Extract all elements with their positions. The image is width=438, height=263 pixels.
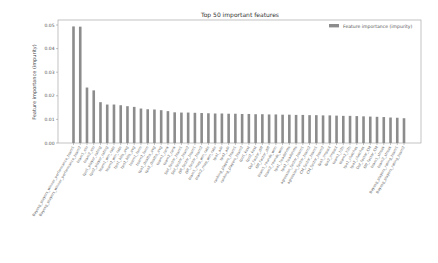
bar: [146, 109, 149, 143]
bar: [281, 115, 284, 143]
bar: [153, 109, 156, 143]
bar: [248, 114, 251, 143]
bar: [86, 88, 89, 143]
feature-importance-chart: Top 50 important features Feature import…: [0, 0, 438, 263]
bar: [342, 116, 345, 143]
y-tick-label: 0.01: [44, 117, 54, 122]
bar: [113, 105, 116, 143]
legend-swatch: [329, 24, 339, 27]
bar: [160, 110, 163, 143]
chart-background: [0, 0, 438, 263]
y-tick-label: 0.04: [44, 46, 54, 51]
bar: [389, 118, 392, 143]
bar: [234, 114, 237, 143]
bar: [106, 105, 109, 143]
y-axis-title: Feature importance (impurity): [31, 44, 38, 120]
bar: [288, 115, 291, 143]
bar: [214, 114, 217, 144]
bar: [349, 116, 352, 143]
bar: [221, 114, 224, 144]
legend-label: Feature importance (impurity): [343, 24, 413, 29]
y-tick-label: 0.00: [44, 141, 54, 146]
bar: [194, 113, 197, 143]
bar: [207, 113, 210, 143]
bar: [167, 111, 170, 143]
bar: [355, 116, 358, 143]
bar: [308, 115, 311, 143]
bar: [126, 106, 129, 143]
bar: [99, 102, 102, 143]
bar: [180, 113, 183, 143]
bar: [382, 117, 385, 143]
bar: [329, 115, 332, 143]
bar: [396, 118, 399, 143]
bar: [133, 107, 136, 143]
bar: [335, 116, 338, 143]
bar: [295, 115, 298, 143]
y-tick-label: 0.02: [44, 93, 54, 98]
bar: [268, 114, 271, 143]
y-tick-label: 0.05: [44, 23, 54, 28]
bar: [275, 114, 278, 143]
bar: [315, 115, 318, 143]
bar: [376, 117, 379, 143]
bar: [200, 113, 203, 143]
bar: [187, 113, 190, 143]
bar: [362, 116, 365, 143]
bar: [72, 26, 75, 143]
y-tick-label: 0.03: [44, 70, 54, 75]
bar: [254, 114, 257, 143]
bar: [369, 117, 372, 143]
bar: [140, 109, 143, 143]
bar: [79, 27, 82, 143]
bar: [241, 114, 244, 143]
bar: [227, 114, 230, 143]
bar: [173, 112, 176, 143]
bar: [119, 105, 122, 143]
bar: [403, 118, 406, 143]
chart-title: Top 50 important features: [200, 11, 279, 19]
bar: [302, 115, 305, 143]
bar: [92, 90, 95, 143]
bar: [261, 114, 264, 143]
bar: [322, 115, 325, 143]
